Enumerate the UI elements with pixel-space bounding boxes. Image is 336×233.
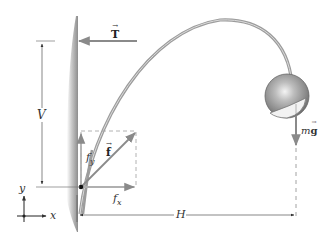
fy-label: fy xyxy=(86,152,95,163)
coordinate-axes xyxy=(17,196,46,222)
force-label: →f xyxy=(106,147,111,158)
diagram-svg xyxy=(0,0,336,233)
vertical-distance-label: V xyxy=(37,109,46,121)
lamp-shade xyxy=(265,74,309,118)
lamp-arc xyxy=(80,20,292,214)
fx-label: fx xyxy=(113,193,122,204)
wall xyxy=(67,16,78,232)
x-axis-label: x xyxy=(50,210,56,221)
weight-label: m→g xyxy=(301,126,317,136)
tension-label: →T xyxy=(111,29,119,40)
horizontal-distance-label: H xyxy=(176,209,186,220)
y-axis-label: y xyxy=(19,183,25,194)
diagram-canvas: →T →f fy fx m→g V H y x xyxy=(0,0,336,233)
